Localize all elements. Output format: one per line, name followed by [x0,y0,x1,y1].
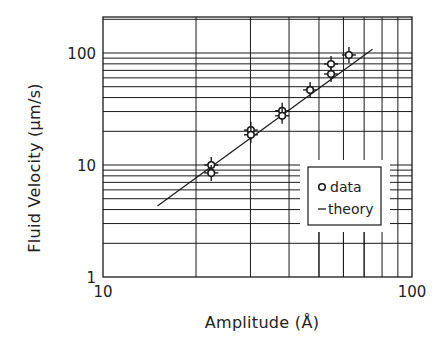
data-point-marker [248,132,255,139]
x-tick-label: 100 [398,283,427,301]
legend-data-label: data [330,179,362,195]
x-tick-label: 10 [93,283,112,301]
plot-frame [103,17,412,277]
y-tick-label: 100 [67,45,96,63]
legend: data theory [308,167,381,225]
y-axis-label: Fluid Velocity (μm/s) [25,83,44,253]
legend-data-marker-icon [319,184,326,191]
data-point-marker [346,52,353,59]
data-point-marker [307,87,314,94]
y-tick-label: 10 [77,157,96,175]
x-axis-label: Amplitude (Å) [205,313,319,332]
x-tick-labels: 10100 [93,283,426,301]
grid [103,17,412,277]
y-tick-labels: 110100 [67,45,96,287]
data-point-marker [328,71,335,78]
data-point-marker [279,112,286,119]
chart: 110100 10100 data theory Amplitude (Å) F… [0,0,446,347]
data-point-marker [208,170,215,177]
legend-theory-label: theory [328,201,374,217]
